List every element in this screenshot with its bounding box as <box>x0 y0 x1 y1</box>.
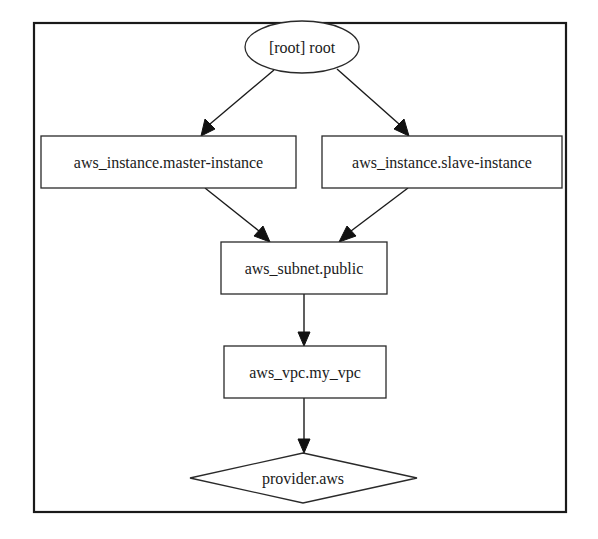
arrow-head-icon <box>298 332 310 346</box>
node-provider-aws[interactable]: provider.aws <box>190 453 417 503</box>
edge-subnet-to-vpc <box>298 294 310 346</box>
node-root[interactable]: [root] root <box>245 21 359 73</box>
edge-master-to-subnet <box>205 188 270 242</box>
dependency-graph: [root] root aws_instance.master-instance… <box>0 0 598 539</box>
node-master-instance[interactable]: aws_instance.master-instance <box>41 136 296 188</box>
node-label: [root] root <box>269 39 336 56</box>
edge-vpc-to-provider <box>298 398 310 453</box>
arrow-head-icon <box>298 439 310 453</box>
edge-root-to-slave <box>337 69 409 136</box>
node-subnet-public[interactable]: aws_subnet.public <box>221 242 387 294</box>
node-label: provider.aws <box>262 470 344 488</box>
node-slave-instance[interactable]: aws_instance.slave-instance <box>322 136 562 188</box>
node-label: aws_instance.master-instance <box>74 154 263 171</box>
node-label: aws_vpc.my_vpc <box>249 364 361 382</box>
node-vpc[interactable]: aws_vpc.my_vpc <box>224 346 386 398</box>
edge-slave-to-subnet <box>339 188 408 242</box>
edge-root-to-master <box>201 70 274 136</box>
node-label: aws_instance.slave-instance <box>352 154 532 171</box>
node-label: aws_subnet.public <box>245 260 364 278</box>
